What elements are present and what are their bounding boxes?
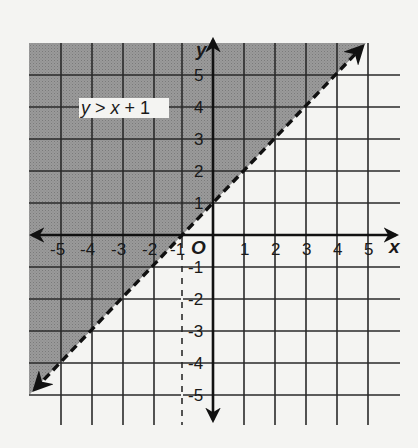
svg-text:-3: -3 [188, 322, 203, 341]
y-axis-label: y [195, 39, 208, 60]
svg-text:-2: -2 [142, 240, 157, 259]
graph-canvas: y > x + 1 y x O -5 -4 -3 -2 -1 1 2 3 4 5… [0, 0, 418, 448]
svg-text:5: 5 [364, 240, 373, 259]
svg-text:-4: -4 [80, 240, 95, 259]
x-axis-label: x [388, 236, 401, 257]
svg-text:2: 2 [271, 240, 280, 259]
svg-text:1: 1 [194, 194, 203, 213]
svg-text:-1: -1 [170, 240, 185, 259]
svg-text:-1: -1 [188, 258, 203, 277]
svg-text:1: 1 [240, 240, 249, 259]
svg-text:2: 2 [194, 162, 203, 181]
svg-text:-4: -4 [188, 354, 203, 373]
svg-text:4: 4 [194, 98, 203, 117]
svg-text:-3: -3 [111, 240, 126, 259]
svg-text:3: 3 [302, 240, 311, 259]
svg-text:-5: -5 [188, 386, 203, 405]
origin-label: O [191, 237, 206, 258]
svg-text:5: 5 [194, 66, 203, 85]
svg-text:-2: -2 [188, 290, 203, 309]
inequality-label: y > x + 1 [79, 98, 150, 118]
svg-text:-5: -5 [50, 240, 65, 259]
svg-text:3: 3 [194, 130, 203, 149]
svg-text:4: 4 [333, 240, 342, 259]
